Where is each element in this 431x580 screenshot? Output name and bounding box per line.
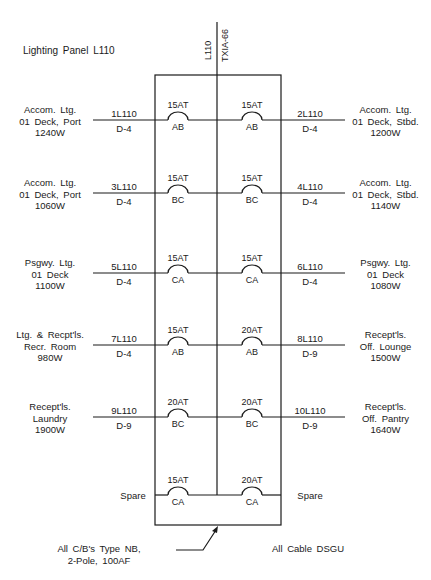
load-label-10: Recept'ls.Off. Pantry1640W [343, 401, 428, 436]
load-label-2: Accom. Ltg.01 Deck, Stbd.1200W [343, 104, 428, 139]
circuit-id-6: 6L110 [285, 261, 335, 272]
breaker-phase-7: AB [163, 347, 193, 357]
load-label-9: Recept'ls.Laundry1900W [10, 401, 90, 436]
breaker-rating-3: 15AT [163, 173, 193, 183]
cable-id-3: D-4 [99, 196, 149, 207]
circuit-id-1: 1L110 [99, 108, 149, 119]
spare-breaker-phase-right: CA [237, 497, 267, 507]
breaker-rating-6: 15AT [237, 253, 267, 263]
cable-id-1: D-4 [99, 123, 149, 134]
load-label-7: Ltg. & Recpt'ls.Recr. Room980W [5, 329, 95, 364]
arrowhead-icon [212, 526, 218, 533]
panel-enclosure [155, 75, 281, 525]
breaker-rating-7: 15AT [163, 325, 193, 335]
note-leader-line [176, 530, 216, 550]
cable-id-8: D-9 [285, 348, 335, 359]
breaker-rating-2: 15AT [237, 100, 267, 110]
load-label-8: Recept'ls.Off. Lounge1500W [343, 329, 428, 364]
load-label-4: Accom. Ltg.01 Deck, Stbd.1140W [343, 177, 428, 212]
breaker-phase-9: BC [163, 419, 193, 429]
circuit-id-2: 2L110 [285, 108, 335, 119]
spare-row [155, 487, 281, 495]
circuit-id-9: 9L110 [99, 405, 149, 416]
breaker-phase-10: BC [237, 419, 267, 429]
circuit-id-4: 4L110 [285, 181, 335, 192]
breaker-phase-4: BC [237, 195, 267, 205]
cable-id-5: D-4 [99, 276, 149, 287]
circuit-id-7: 7L110 [99, 333, 149, 344]
breaker-phase-5: CA [163, 275, 193, 285]
circuit-id-5: 5L110 [99, 261, 149, 272]
breaker-rating-4: 15AT [237, 173, 267, 183]
load-label-5: Psgwy. Ltg.01 Deck1100W [10, 257, 90, 292]
load-label-3: Accom. Ltg.01 Deck, Port1060W [10, 177, 90, 212]
cable-id-2: D-4 [285, 123, 335, 134]
breaker-rating-1: 15AT [163, 100, 193, 110]
breaker-rating-9: 20AT [163, 397, 193, 407]
spare-label-left: Spare [116, 490, 150, 502]
spare-breaker-phase-left: CA [163, 497, 193, 507]
cable-id-7: D-4 [99, 348, 149, 359]
breaker-rating-10: 20AT [237, 397, 267, 407]
load-label-6: Psgwy. Ltg.01 Deck1080W [343, 257, 428, 292]
breaker-phase-8: AB [237, 347, 267, 357]
cable-id-10: D-9 [285, 420, 335, 431]
circuit-id-10: 10L110 [285, 405, 335, 416]
breaker-rating-5: 15AT [163, 253, 193, 263]
breaker-phase-3: BC [163, 195, 193, 205]
circuit-id-3: 3L110 [99, 181, 149, 192]
cable-id-4: D-4 [285, 196, 335, 207]
feeder-cable: TXIA-66 [220, 29, 230, 62]
spare-breaker-rating-right: 20AT [237, 475, 267, 485]
breaker-phase-6: CA [237, 275, 267, 285]
panel-title: Lighting Panel L110 [23, 45, 115, 56]
breaker-rating-8: 20AT [237, 325, 267, 335]
breaker-phase-2: AB [237, 122, 267, 132]
spare-breaker-rating-left: 15AT [163, 475, 193, 485]
cable-note: All Cable DSGU [268, 543, 348, 555]
circuit-id-8: 8L110 [285, 333, 335, 344]
load-label-1: Accom. Ltg.01 Deck, Port1240W [10, 104, 90, 139]
feeder-name: L110 [203, 41, 213, 60]
spare-label-right: Spare [293, 490, 327, 502]
cable-id-9: D-9 [99, 420, 149, 431]
breaker-phase-1: AB [163, 122, 193, 132]
breaker-note: All C/B's Type NB,2-Pole, 100AF [44, 543, 154, 567]
cable-id-6: D-4 [285, 276, 335, 287]
